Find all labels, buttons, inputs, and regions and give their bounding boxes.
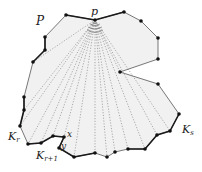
label-K-r: Kr — [7, 130, 20, 144]
label-y: y — [60, 141, 67, 151]
label-K-r-plus-1: Kr+1 — [35, 149, 58, 163]
label-apex-p: p — [91, 5, 98, 18]
label-x: x — [67, 129, 72, 139]
label-K-s: Ks — [181, 123, 194, 137]
label-polygon-P: P — [35, 14, 45, 28]
visibility-diagram: P p Kr Kr+1 Ks x y — [0, 0, 202, 172]
